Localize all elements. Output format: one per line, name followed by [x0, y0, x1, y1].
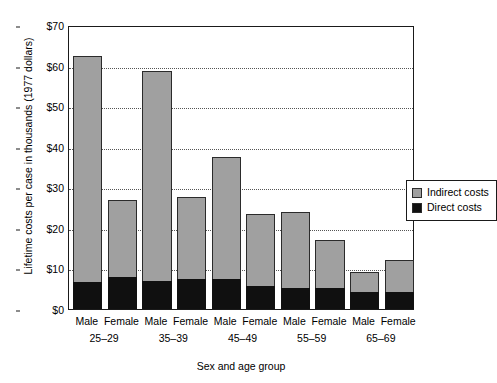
- y-axis-tick-label: $10: [20, 264, 64, 275]
- x-axis-sex-label: Female: [368, 315, 428, 327]
- legend-label-direct: Direct costs: [427, 202, 482, 213]
- x-axis-age-group-label: 25–29: [69, 332, 139, 344]
- bar-male-55-59: [281, 212, 310, 309]
- y-axis-tick-mark: [16, 270, 20, 271]
- gridline: [69, 108, 413, 109]
- x-axis-age-group-label: 55–59: [277, 332, 347, 344]
- y-axis-tick-mark: [16, 67, 20, 68]
- bar-male-45-49: [212, 157, 241, 309]
- bar-segment-direct: [108, 277, 137, 309]
- bar-segment-direct: [385, 292, 414, 309]
- gridline: [69, 68, 413, 69]
- bar-segment-indirect: [73, 56, 102, 309]
- bar-segment-direct: [315, 288, 344, 310]
- bar-segment-direct: [73, 282, 102, 309]
- bar-male-65-69: [350, 272, 379, 309]
- bar-male-35-39: [142, 71, 171, 309]
- bar-segment-indirect: [142, 71, 171, 309]
- bar-female-35-39: [177, 197, 206, 309]
- chart-legend: Indirect costs Direct costs: [406, 180, 497, 221]
- bar-female-25-29: [108, 200, 137, 309]
- bar-segment-direct: [350, 292, 379, 309]
- x-axis-age-group-label: 35–39: [138, 332, 208, 344]
- x-axis-age-group-label: 65–69: [346, 332, 416, 344]
- y-axis-tick-label: $70: [20, 21, 64, 32]
- bar-segment-direct: [281, 288, 310, 310]
- y-axis-tick-label: $0: [20, 305, 64, 316]
- bar-segment-direct: [142, 281, 171, 309]
- bar-segment-direct: [212, 279, 241, 309]
- bar-female-65-69: [385, 260, 414, 309]
- y-axis-tick-label: $50: [20, 102, 64, 113]
- y-axis-title: Lifetime costs per case in thousands (19…: [22, 11, 34, 301]
- y-axis-tick-mark: [16, 229, 20, 230]
- y-axis-tick-mark: [16, 189, 20, 190]
- y-axis-tick-mark: [16, 108, 20, 109]
- y-axis-tick-mark: [16, 27, 20, 28]
- bar-female-45-49: [246, 214, 275, 309]
- y-axis-tick-mark: [16, 311, 20, 312]
- legend-label-indirect: Indirect costs: [427, 187, 489, 198]
- gridline: [69, 189, 413, 190]
- bar-segment-direct: [177, 279, 206, 309]
- y-axis-tick-label: $60: [20, 61, 64, 72]
- gridline: [69, 149, 413, 150]
- y-axis-tick-label: $20: [20, 223, 64, 234]
- y-axis-tick-label: $30: [20, 183, 64, 194]
- plot-area: Indirect costs Direct costs: [68, 26, 414, 310]
- bar-female-55-59: [315, 240, 344, 309]
- legend-item-indirect-costs: Indirect costs: [412, 185, 489, 200]
- x-axis-title: Sex and age group: [68, 360, 414, 372]
- legend-swatch-indirect-icon: [412, 188, 422, 198]
- legend-item-direct-costs: Direct costs: [412, 200, 489, 215]
- y-axis-tick-mark: [16, 148, 20, 149]
- bar-male-25-29: [73, 56, 102, 309]
- y-axis-tick-label: $40: [20, 142, 64, 153]
- bar-segment-direct: [246, 286, 275, 309]
- legend-swatch-direct-icon: [412, 203, 422, 213]
- x-axis-age-group-label: 45–49: [208, 332, 278, 344]
